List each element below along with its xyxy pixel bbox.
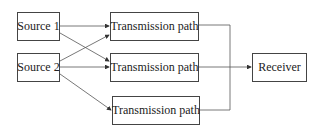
source-2-node: Source 2 bbox=[17, 53, 60, 82]
transmission-path-1-node: Transmission path bbox=[110, 12, 199, 41]
edge-path1-merge bbox=[199, 25, 230, 110]
transmission-path-3-node: Transmission path bbox=[112, 96, 200, 125]
diagram-canvas: Source 1 Source 2 Transmission path Tran… bbox=[0, 0, 323, 133]
edge-source2-path3 bbox=[60, 74, 111, 110]
receiver-node: Receiver bbox=[252, 53, 307, 82]
transmission-path-2-node: Transmission path bbox=[110, 53, 199, 82]
source-1-node: Source 1 bbox=[17, 12, 60, 41]
